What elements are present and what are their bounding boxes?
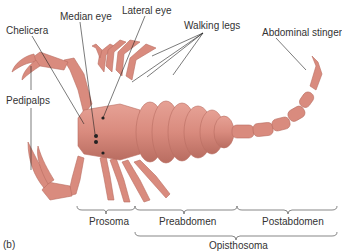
label-median-eye: Median eye	[60, 12, 112, 22]
region-opisthosoma: Opisthosoma	[209, 241, 268, 251]
median-eye-dot-2	[94, 140, 98, 144]
label-chelicera: Chelicera	[6, 26, 48, 36]
label-abdominal-stinger: Abdominal stinger	[262, 28, 342, 38]
label-walking-legs: Walking legs	[184, 21, 240, 31]
label-pedipalps: Pedipalps	[6, 96, 50, 106]
pedipalp-lower	[28, 142, 84, 200]
walking-legs-upper	[92, 40, 156, 80]
median-eye-dot-1	[94, 134, 98, 138]
postabdomen-tail	[232, 56, 322, 138]
lateral-eye-dot-2	[101, 151, 104, 154]
walking-legs-lower	[100, 156, 170, 202]
region-prosoma: Prosoma	[89, 217, 129, 227]
region-postabdomen: Postabdomen	[262, 217, 324, 227]
panel-label: (b)	[3, 240, 15, 250]
region-preabdomen: Preabdomen	[159, 217, 216, 227]
preabdomen-segments	[136, 101, 234, 163]
label-lateral-eye: Lateral eye	[122, 6, 171, 16]
prosoma-carapace	[78, 104, 140, 160]
